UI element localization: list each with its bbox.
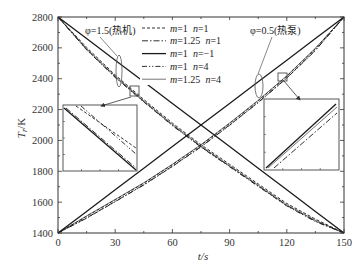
legend-label: m=1.25n=4 <box>170 74 221 85</box>
x-tick-label: 90 <box>224 237 235 248</box>
x-tick-label: 60 <box>167 237 178 248</box>
y-tick-label: 2400 <box>32 73 53 84</box>
leader-line <box>258 37 272 74</box>
y-tick-label: 2000 <box>32 135 53 146</box>
x-tick-label: 30 <box>110 237 121 248</box>
legend: m=1n=1m=1.25n=1m=1n=−1m=1n=4m=1.25n=4 <box>140 20 240 85</box>
leader-line <box>100 37 117 56</box>
heat-engine-zoom <box>63 86 139 171</box>
zoom-insets <box>63 73 339 171</box>
x-tick-label: 0 <box>55 237 60 248</box>
annotation-label: φ=0.5(热泵) <box>250 24 301 37</box>
y-tick-label: 2800 <box>32 12 53 23</box>
svg-text:Tr/K: Tr/K <box>15 118 29 138</box>
arrow-icon <box>284 81 300 100</box>
y-tick-label: 1400 <box>32 228 53 239</box>
x-tick-label: 120 <box>279 237 295 248</box>
temperature-vs-time-chart: 0306090120150140016001800200022002400260… <box>0 0 363 269</box>
x-tick-label: 150 <box>336 237 352 248</box>
legend-label: m=1n=−1 <box>170 48 214 59</box>
y-tick-label: 2600 <box>32 42 53 53</box>
y-tick-label: 1600 <box>32 197 53 208</box>
y-tick-label: 1800 <box>32 166 53 177</box>
x-axis-label: t/s <box>198 250 208 262</box>
y-tick-label: 2200 <box>32 104 53 115</box>
group-ellipse <box>116 55 122 87</box>
group-ellipse <box>255 74 263 98</box>
annotation-label: φ=1.5(热机) <box>85 24 136 37</box>
y-axis-label: Tr/K <box>15 118 29 138</box>
legend-label: m=1.25n=1 <box>170 35 221 46</box>
